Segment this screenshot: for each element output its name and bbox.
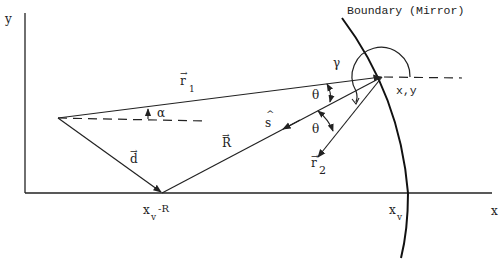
vector-r1 [58, 77, 381, 118]
xv-minus-R-subscript: v [150, 212, 157, 222]
r1-subscript: 1 [189, 84, 195, 94]
alpha-label: α [157, 106, 165, 120]
theta-angle-arc-2 [318, 111, 333, 131]
dashed-reference-left [58, 118, 205, 121]
unit-vector-s [283, 120, 300, 129]
R-label: R [222, 136, 232, 150]
mirror-point-label: x,y [396, 84, 417, 97]
theta-label-1: θ [312, 88, 319, 102]
r2-subscript: 2 [319, 164, 326, 177]
xv-base: x [389, 203, 396, 217]
r1-label: r [180, 74, 186, 88]
r2-label: r [311, 156, 317, 170]
mirror-boundary-curve [342, 18, 408, 258]
xv-minus-R-base: x [143, 203, 150, 217]
vector-d [58, 118, 161, 192]
theta-angle-arc-1 [327, 84, 331, 102]
boundary-title: Boundary (Mirror) [347, 4, 464, 17]
vector-R [162, 77, 382, 193]
d-label: d [130, 152, 138, 166]
theta-label-2: θ [312, 122, 319, 136]
y-axis-label: y [4, 12, 12, 26]
gamma-arc-arrowhead [352, 98, 359, 104]
mirror-reflection-diagram: Boundary (Mirror) y x → r 1 α → d → R ^ … [0, 0, 503, 266]
x-axis-label: x [491, 204, 498, 218]
gamma-label: γ [333, 56, 340, 70]
xv-minus-R-suffix: -R [158, 203, 169, 214]
dashed-reference-mirror [384, 77, 462, 78]
xv-subscript: v [396, 212, 403, 222]
vector-r2 [318, 77, 382, 157]
s-label: s [265, 116, 271, 130]
